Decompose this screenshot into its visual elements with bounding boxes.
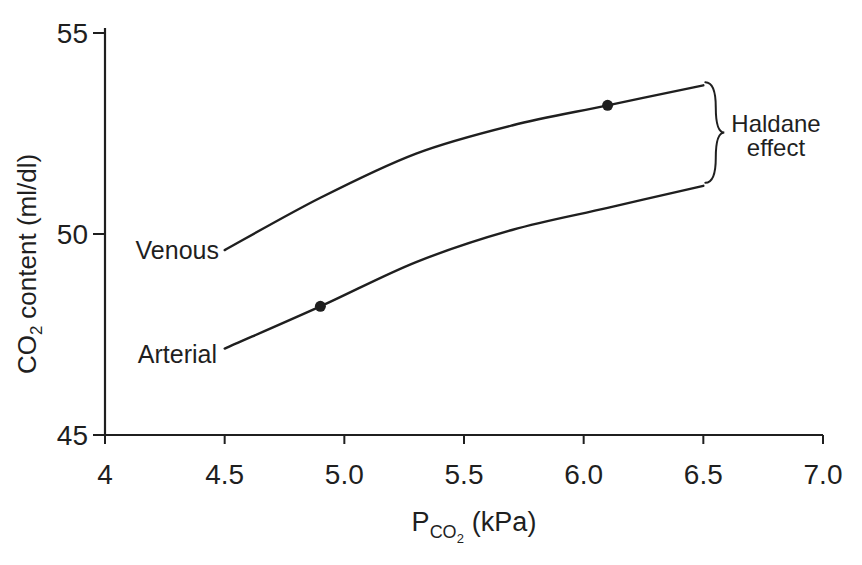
x-axis-title: PCO2(kPa) (412, 507, 537, 546)
chart-canvas: 55504544.55.05.56.06.57.0 CO2content (ml… (0, 0, 862, 565)
x-tick-label: 7.0 (804, 459, 843, 490)
x-tick-label: 5.5 (445, 459, 484, 490)
haldane-effect-label-line2: effect (747, 134, 806, 161)
x-axis-title-rest: (kPa) (472, 507, 537, 537)
venous-point-marker (602, 100, 613, 111)
y-tick-label: 50 (57, 219, 88, 250)
venous-curve-label: Venous (136, 236, 219, 264)
y-axis-title: CO2content (ml/dl) (12, 154, 46, 374)
x-tick-label: 6.0 (564, 459, 603, 490)
x-tick-label: 4 (97, 459, 113, 490)
venous-curve (225, 85, 704, 250)
x-axis-title-main: P (412, 507, 430, 537)
axes-group (105, 28, 823, 435)
x-axis-title-subscript: CO (430, 522, 457, 542)
arterial-point-marker (315, 301, 326, 312)
haldane-effect-label-line1: Haldane (731, 110, 820, 137)
curves-group (225, 85, 704, 348)
y-axis-title-main: CO (12, 335, 42, 374)
x-tick-label: 4.5 (205, 459, 244, 490)
y-tick-label: 55 (57, 18, 88, 49)
y-axis-title-rest: content (ml/dl) (12, 154, 42, 319)
y-tick-label: 45 (57, 420, 88, 451)
haldane-effect-brace (705, 82, 724, 182)
x-tick-label: 5.0 (325, 459, 364, 490)
annotation-group (705, 82, 724, 182)
haldane-effect-figure: 55504544.55.05.56.06.57.0 CO2content (ml… (0, 0, 862, 565)
arterial-curve-label: Arterial (138, 340, 217, 368)
y-axis-title-subscript: 2 (27, 326, 46, 335)
x-axis-title-subsubscript: 2 (457, 531, 464, 546)
x-tick-label: 6.5 (684, 459, 723, 490)
